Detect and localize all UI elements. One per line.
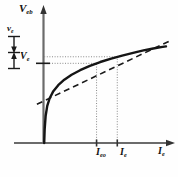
quiescent-current-label: Ieo: [96, 147, 106, 157]
x-axis-label: Ie: [158, 146, 165, 156]
y-axis-label-sub: eb: [26, 8, 32, 15]
axes: [14, 5, 175, 146]
figure-emitter-characteristic: Veb ve Ve Ieo Ie Ie: [0, 0, 178, 177]
plot-canvas: [0, 0, 178, 177]
total-current-sub: e: [124, 151, 127, 158]
x-axis-arrowhead: [166, 140, 175, 146]
total-current-label: Ie: [120, 147, 127, 157]
y-axis-arrowhead: [40, 5, 46, 14]
tangent-line-dashed: [37, 41, 170, 104]
x-axis-label-sub: e: [162, 150, 165, 157]
quiescent-current-sub: eo: [100, 151, 106, 158]
y-axis-label: Veb: [19, 3, 33, 14]
bias-voltage-label: Ve: [20, 51, 29, 61]
bias-voltage-sub: e: [27, 55, 30, 62]
bias-voltage-main: V: [20, 50, 27, 61]
small-signal-voltage-label: ve: [7, 24, 13, 33]
characteristic-curve: [44, 46, 166, 143]
